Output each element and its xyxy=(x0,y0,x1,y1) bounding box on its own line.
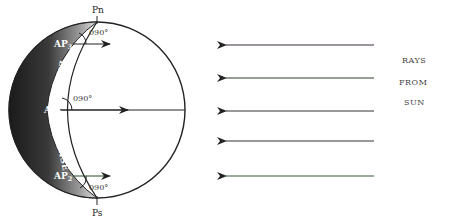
angle-label-ap2: 090° xyxy=(89,183,108,192)
sun-rays xyxy=(226,45,374,176)
rays-label-line-2: FROM xyxy=(399,78,427,87)
rays-label-line-3: SUN xyxy=(404,98,425,107)
rays-label-line-1: RAYS xyxy=(402,56,426,65)
angle-label-ap1: 090° xyxy=(73,94,92,103)
angle-label-ap3: 090° xyxy=(89,28,108,37)
sunrise-diagram: Pn Ps 090° 090° 090° AP3 AP1 AP2 LINE OF… xyxy=(0,0,449,223)
south-pole-label: Ps xyxy=(92,208,103,218)
north-pole-label: Pn xyxy=(92,5,104,15)
